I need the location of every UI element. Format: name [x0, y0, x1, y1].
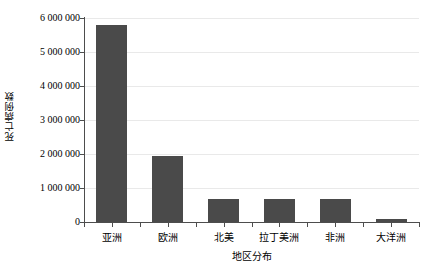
- x-axis-title: 地区分布: [84, 248, 420, 263]
- y-axis-tick-labels: 01 000 0002 000 0003 000 0004 000 0005 0…: [20, 0, 80, 277]
- x-axis-tick-labels: 亚洲欧洲北美拉丁美洲非洲大洋洲: [84, 229, 420, 245]
- x-tickmark-boundary: [140, 223, 141, 227]
- gridline: [84, 86, 419, 87]
- y-tickmark: [80, 154, 84, 155]
- x-tick-label: 非洲: [325, 229, 345, 244]
- x-tickmark-boundary: [419, 223, 420, 227]
- bar: [152, 156, 183, 222]
- x-tickmark-boundary: [363, 223, 364, 227]
- y-tickmark: [80, 188, 84, 189]
- x-tick-label: 大洋洲: [376, 229, 406, 244]
- bar: [208, 199, 239, 222]
- bar: [264, 199, 295, 222]
- y-tick-label: 5 000 000: [22, 47, 80, 57]
- y-tickmark: [80, 120, 84, 121]
- y-tickmark: [80, 18, 84, 19]
- x-tick-label: 拉丁美洲: [259, 229, 299, 244]
- x-tickmark-center: [279, 223, 280, 227]
- y-tick-label: 6 000 000: [22, 13, 80, 23]
- x-tick-label: 亚洲: [102, 229, 122, 244]
- x-tickmark-boundary: [84, 223, 85, 227]
- bar: [96, 25, 127, 222]
- x-tickmark-center: [391, 223, 392, 227]
- x-tickmark-center: [168, 223, 169, 227]
- gridline: [84, 52, 419, 53]
- y-axis-line: [84, 17, 85, 223]
- gridline: [84, 154, 419, 155]
- gridline: [84, 18, 419, 19]
- bar-chart: 死亡病例数 01 000 0002 000 0003 000 0004 000 …: [0, 0, 428, 277]
- x-tickmark-center: [224, 223, 225, 227]
- y-tickmark: [80, 86, 84, 87]
- x-tick-label: 北美: [214, 229, 234, 244]
- gridline: [84, 188, 419, 189]
- x-tickmark-boundary: [307, 223, 308, 227]
- y-tick-label: 4 000 000: [22, 81, 80, 91]
- bar: [320, 199, 351, 222]
- x-tickmark-center: [335, 223, 336, 227]
- x-tickmark-boundary: [252, 223, 253, 227]
- gridline: [84, 120, 419, 121]
- y-tick-label: 0: [22, 217, 80, 227]
- y-axis-title: 死亡病例数: [2, 68, 18, 164]
- x-tickmark-boundary: [196, 223, 197, 227]
- y-tick-label: 2 000 000: [22, 149, 80, 159]
- y-tick-label: 1 000 000: [22, 183, 80, 193]
- y-tickmark: [80, 52, 84, 53]
- y-tick-label: 3 000 000: [22, 115, 80, 125]
- x-tick-label: 欧洲: [158, 229, 178, 244]
- plot-area: [84, 18, 419, 222]
- x-tickmark-center: [112, 223, 113, 227]
